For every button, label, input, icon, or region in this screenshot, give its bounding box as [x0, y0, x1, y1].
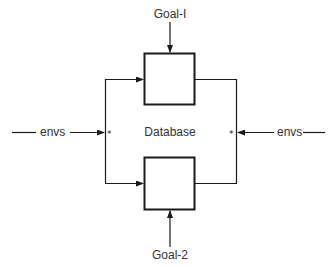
goal-2-label: Goal-2: [152, 248, 188, 262]
left-junction-asterisk: *: [107, 129, 112, 139]
goal-1-label: Goal-I: [154, 7, 187, 21]
right-envs-label: envs: [276, 125, 303, 139]
left-envs-label: envs: [39, 125, 66, 139]
goal-1-box: [145, 54, 195, 105]
right-junction-asterisk: *: [229, 129, 234, 139]
goal-2-box: [145, 158, 195, 210]
database-label: Database: [144, 125, 195, 139]
